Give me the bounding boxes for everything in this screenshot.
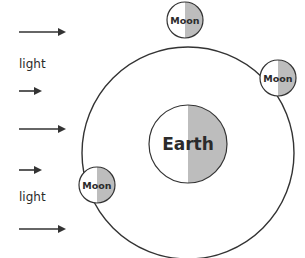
moon-phase-diagram: light light Earth Moon Moon Moon [0,0,305,258]
earth-label: Earth [162,134,214,154]
moon-label: Moon [263,73,293,84]
light-label: light [19,57,46,71]
moon-label: Moon [170,15,200,26]
light-label: light [19,190,46,204]
moon-label: Moon [82,180,112,191]
moon-top: Moon [167,0,205,40]
earth: Earth [149,100,233,190]
moon-upper-right: Moon [260,58,298,98]
moon-lower-left: Moon [79,165,117,205]
